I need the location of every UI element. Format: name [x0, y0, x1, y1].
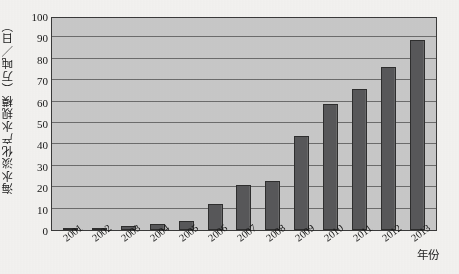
bar-chart-figure: 海水淡化产水规模（万吨／日） 0102030405060708090100 20…: [0, 0, 459, 274]
y-axis-title: 海水淡化产水规模（万吨／日）: [0, 6, 17, 206]
y-axis-tick: 70: [22, 76, 48, 87]
bar: [410, 40, 425, 230]
y-axis-tick: 0: [22, 226, 48, 237]
y-axis-tick: 80: [22, 54, 48, 65]
y-axis-title-text: 海水淡化产水规模（万吨／日）: [0, 19, 16, 194]
y-axis-tick: 100: [22, 12, 48, 23]
bar: [352, 89, 367, 230]
bar: [381, 67, 396, 230]
y-axis-tick: 60: [22, 97, 48, 108]
x-axis-title: 年份: [417, 246, 439, 262]
y-axis-tick: 30: [22, 161, 48, 172]
y-axis-tick: 90: [22, 33, 48, 44]
y-axis-tick-labels: 0102030405060708090100: [18, 0, 48, 274]
bar-series: [52, 18, 436, 230]
x-axis-tick-labels: 2001200220032004200520062007200820092010…: [51, 233, 437, 273]
bar: [294, 136, 309, 230]
y-axis-tick: 40: [22, 140, 48, 151]
y-axis-tick: 50: [22, 119, 48, 130]
y-axis-tick: 20: [22, 183, 48, 194]
y-axis-tick: 10: [22, 204, 48, 215]
plot-area: [51, 17, 437, 231]
bar: [323, 104, 338, 230]
